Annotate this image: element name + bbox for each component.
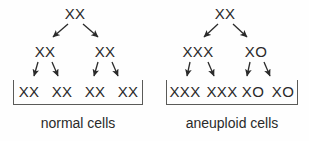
cell-division-diagram: XX XX XX XX XX XX XX XX XXX XO XXX XXX X… bbox=[0, 0, 309, 141]
cell-normal-parent: XX bbox=[65, 6, 86, 21]
caption-aneuploid-cells: aneuploid cells bbox=[186, 115, 279, 131]
cell-normal-gen1-left: XX bbox=[35, 44, 56, 59]
cell-normal-gen1-right: XX bbox=[95, 44, 116, 59]
cell-aneuploid-gen1-right: XO bbox=[245, 44, 267, 59]
bracket-aneuploid-cells bbox=[166, 80, 298, 105]
caption-normal-cells: normal cells bbox=[41, 115, 116, 131]
bracket-normal-cells bbox=[13, 80, 143, 105]
cell-aneuploid-gen1-left: XXX bbox=[183, 44, 214, 59]
cell-aneuploid-parent: XX bbox=[215, 6, 236, 21]
